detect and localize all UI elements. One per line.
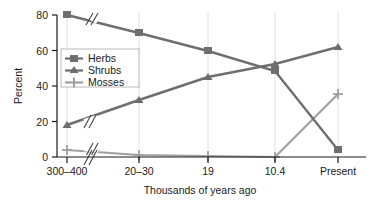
y-tick-label-20: 20	[36, 116, 48, 128]
y-tick-label-60: 60	[36, 45, 48, 57]
x-tick-label-3: 10.4	[265, 165, 286, 177]
axis-break-marks	[84, 13, 98, 165]
series-mosses	[62, 89, 343, 162]
mosses-line	[67, 94, 338, 157]
x-axis	[57, 157, 366, 163]
x-axis-title: Thousands of years ago	[144, 184, 257, 196]
x-tick-label-1: 20–30	[124, 165, 153, 177]
square-marker-icon	[70, 55, 78, 62]
x-tick-label-2: 19	[202, 165, 214, 177]
y-axis-title: Percent	[12, 68, 24, 104]
legend-label-herbs: Herbs	[88, 52, 116, 64]
line-chart: 80 60 40 20 0 Percent	[0, 0, 370, 203]
legend-label-shrubs: Shrubs	[88, 64, 121, 76]
legend: Herbs Shrubs Mosses	[61, 49, 139, 88]
x-tick-label-4: Present	[320, 165, 356, 177]
y-axis	[52, 15, 57, 157]
y-tick-label-80: 80	[36, 9, 48, 21]
legend-label-mosses: Mosses	[88, 76, 124, 88]
x-tick-label-0: 300–400	[47, 165, 88, 177]
chart-canvas: 80 60 40 20 0 Percent	[0, 0, 370, 203]
y-tick-label-40: 40	[36, 80, 48, 92]
mosses-markers	[62, 89, 343, 162]
y-tick-label-0: 0	[42, 151, 48, 163]
legend-item-mosses[interactable]: Mosses	[65, 76, 124, 88]
